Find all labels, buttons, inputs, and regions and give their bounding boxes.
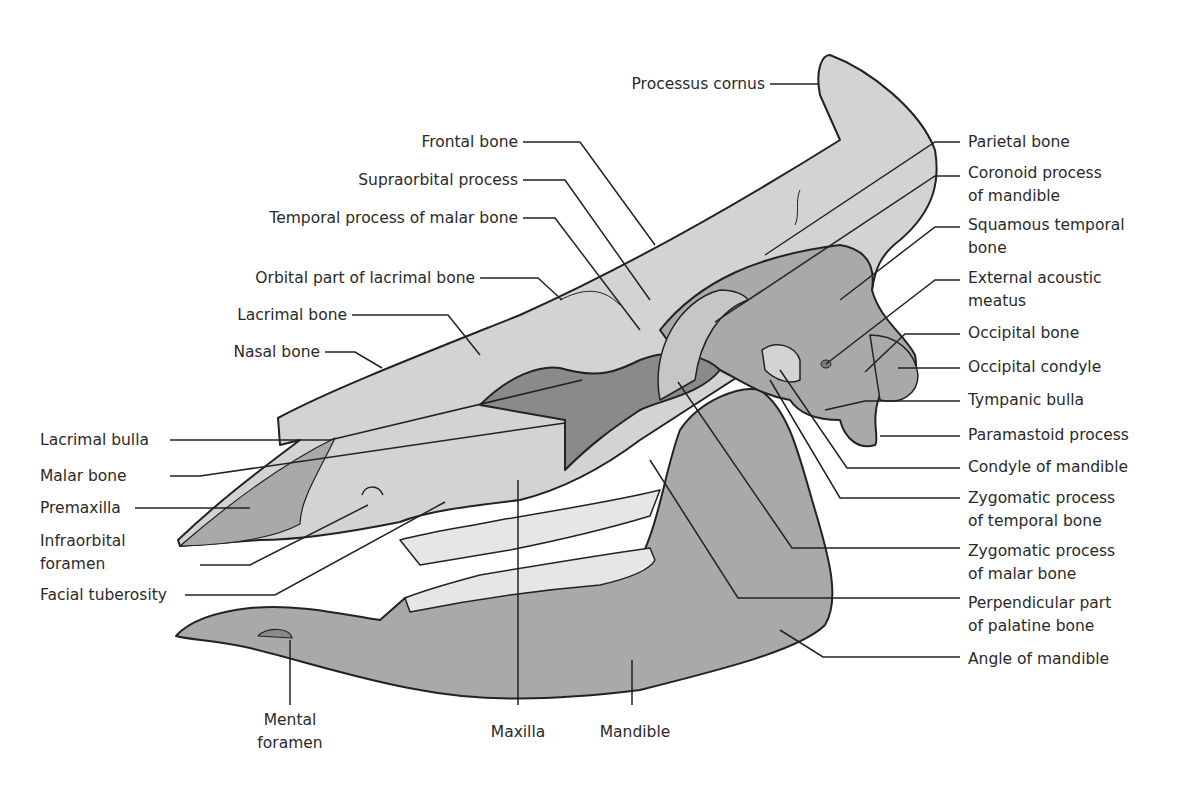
label-temporal-process-malar: Temporal process of malar bone (198, 207, 518, 230)
label-nasal-bone: Nasal bone (180, 341, 320, 364)
label-mental-foramen: Mental foramen (240, 709, 340, 755)
label-occipital-bone: Occipital bone (968, 322, 1079, 345)
label-premaxilla: Premaxilla (40, 497, 121, 520)
label-processus-cornus: Processus cornus (560, 73, 765, 96)
label-squamous-temporal: Squamous temporal bone (968, 214, 1125, 260)
label-malar-bone: Malar bone (40, 465, 127, 488)
label-infraorbital-foramen: Infraorbital foramen (40, 530, 126, 576)
label-tympanic-bulla: Tympanic bulla (968, 389, 1084, 412)
label-lacrimal-bone: Lacrimal bone (180, 304, 347, 327)
label-paramastoid-process: Paramastoid process (968, 424, 1129, 447)
label-external-acoustic-meatus: External acoustic meatus (968, 267, 1102, 313)
label-mandible: Mandible (585, 721, 685, 744)
label-parietal-bone: Parietal bone (968, 131, 1070, 154)
label-perpendicular-palatine: Perpendicular part of palatine bone (968, 592, 1111, 638)
label-condyle-of-mandible: Condyle of mandible (968, 456, 1128, 479)
label-maxilla: Maxilla (470, 721, 566, 744)
label-coronoid-process: Coronoid process of mandible (968, 162, 1102, 208)
label-supraorbital-process: Supraorbital process (298, 169, 518, 192)
label-lacrimal-bulla: Lacrimal bulla (40, 429, 149, 452)
label-facial-tuberosity: Facial tuberosity (40, 584, 167, 607)
label-frontal-bone: Frontal bone (318, 131, 518, 154)
skull-diagram: Processus cornus Frontal bone Supraorbit… (0, 0, 1188, 790)
label-orbital-part-lacrimal: Orbital part of lacrimal bone (185, 267, 475, 290)
label-zygomatic-process-malar: Zygomatic process of malar bone (968, 540, 1115, 586)
label-angle-of-mandible: Angle of mandible (968, 648, 1109, 671)
label-zygomatic-process-temporal: Zygomatic process of temporal bone (968, 487, 1115, 533)
label-occipital-condyle: Occipital condyle (968, 356, 1101, 379)
